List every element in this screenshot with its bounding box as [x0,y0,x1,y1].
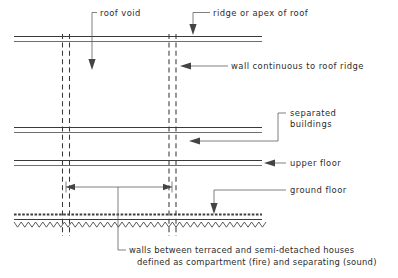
leader-wall-continuous [180,62,228,69]
label-roof-void: roof void [100,8,141,18]
label-upper-floor: upper floor [290,158,341,168]
leader-caption [118,187,126,250]
diagram-canvas: roof void ridge or apex of roof wall con… [0,0,398,278]
label-separated-buildings-line1: separated [290,108,336,118]
label-wall-continuous: wall continuous to roof ridge [231,61,364,71]
label-ridge-apex: ridge or apex of roof [213,8,309,18]
dimension-between-walls [66,182,172,193]
upper-floor-line [14,161,262,166]
leader-ridge-apex [189,13,210,36]
ground-floor-slab [14,215,266,228]
leader-ground-floor [210,190,286,214]
roof-ridge-line [14,37,262,42]
caption-line-1: walls between terraced and semi-detached… [129,245,354,255]
leader-upper-floor [264,159,286,166]
ceiling-line [14,128,262,133]
separating-wall-left [63,34,70,236]
separating-wall-right [169,34,176,236]
label-ground-floor: ground floor [290,185,347,195]
caption-line-2: defined as compartment (fire) and separa… [137,257,377,267]
architectural-section-diagram: roof void ridge or apex of roof wall con… [0,0,398,278]
label-separated-buildings-line2: buildings [290,119,332,129]
leader-separated-buildings [189,113,286,145]
